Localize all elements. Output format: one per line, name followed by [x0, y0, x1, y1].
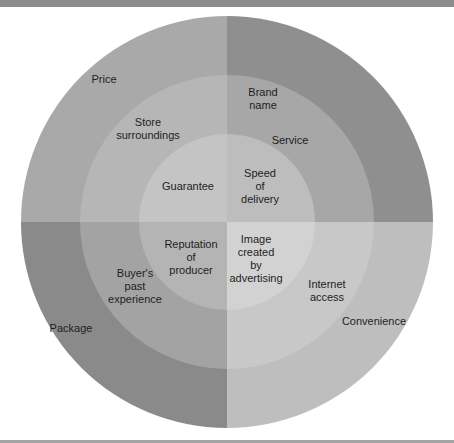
label-line: access [310, 291, 345, 303]
label-top-left-outer: Price [91, 73, 116, 85]
label-line: of [186, 251, 196, 263]
label-line: Buyer's [117, 267, 154, 279]
label-line: producer [169, 264, 213, 276]
label-line: Speed [244, 167, 276, 179]
label-line: Package [50, 322, 93, 334]
label-line: past [125, 280, 146, 292]
label-line: advertising [229, 272, 282, 284]
concentric-circle-diagram: PriceStoresurroundingsGuaranteeBrandname… [0, 0, 454, 443]
label-line: by [250, 259, 262, 271]
label-line: Guarantee [162, 180, 214, 192]
label-bottom-right-middle: Internetaccess [308, 278, 345, 303]
label-line: name [249, 99, 277, 111]
label-line: surroundings [116, 129, 180, 141]
label-top-right-outer: Brandname [248, 86, 277, 111]
label-line: created [238, 246, 275, 258]
label-line: Reputation [164, 238, 217, 250]
label-line: Brand [248, 86, 277, 98]
label-line: Convenience [342, 315, 406, 327]
label-line: experience [108, 293, 162, 305]
label-bottom-left-outer: Package [50, 322, 93, 334]
label-line: delivery [241, 193, 279, 205]
label-bottom-right-outer: Convenience [342, 315, 406, 327]
label-line: Price [91, 73, 116, 85]
label-line: Store [135, 116, 161, 128]
label-line: Service [272, 134, 309, 146]
label-top-right-middle: Service [272, 134, 309, 146]
sectors-group [21, 16, 433, 428]
label-top-left-inner: Guarantee [162, 180, 214, 192]
label-line: Image [241, 233, 272, 245]
label-line: Internet [308, 278, 345, 290]
label-line: of [255, 180, 265, 192]
